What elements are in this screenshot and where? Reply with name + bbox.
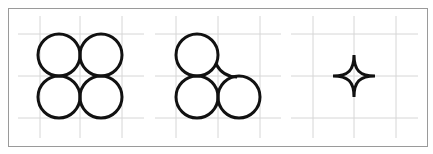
figure-canvas xyxy=(0,0,433,154)
